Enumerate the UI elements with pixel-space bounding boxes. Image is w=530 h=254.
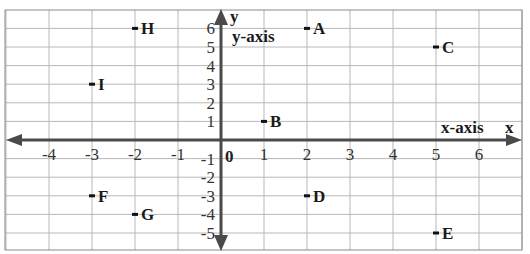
- x-tick-label: -3: [85, 145, 99, 164]
- point-marker: [132, 213, 138, 216]
- y-tick-label: 5: [207, 38, 216, 57]
- point-label: E: [442, 224, 453, 243]
- x-tick-label: 4: [389, 145, 398, 164]
- y-tick-label: -3: [201, 187, 215, 206]
- point-label: B: [270, 112, 281, 131]
- y-tick-labels: -5-4-3-2-1123456: [201, 19, 216, 243]
- x-axis-label: x: [505, 118, 514, 137]
- y-axis-label: y: [230, 7, 239, 26]
- point-label: A: [313, 19, 326, 38]
- point-marker: [89, 83, 95, 86]
- x-axis-left-arrow-icon: [6, 134, 22, 146]
- points: ABCDEFGHI: [89, 19, 454, 243]
- point-marker: [433, 46, 439, 49]
- y-tick-label: -5: [201, 224, 215, 243]
- y-axis-name: y-axis: [232, 27, 275, 46]
- point-marker: [89, 194, 95, 197]
- x-tick-label: -2: [128, 145, 142, 164]
- point-marker: [304, 27, 310, 30]
- y-tick-label: 2: [207, 94, 216, 113]
- point-label: C: [442, 38, 454, 57]
- y-axis-down-arrow-icon: [214, 235, 228, 251]
- y-axis-up-arrow-icon: [214, 9, 228, 25]
- x-axis-name: x-axis: [441, 118, 484, 137]
- point-label: G: [141, 205, 154, 224]
- x-tick-label: 5: [432, 145, 441, 164]
- y-tick-label: -1: [201, 150, 215, 169]
- point-label: F: [98, 187, 108, 206]
- x-tick-label: 3: [346, 145, 355, 164]
- x-tick-label: 2: [303, 145, 312, 164]
- y-tick-label: 3: [207, 75, 216, 94]
- y-tick-label: 4: [207, 57, 216, 76]
- point-marker: [132, 27, 138, 30]
- y-tick-label: -2: [201, 168, 215, 187]
- y-tick-label: 1: [207, 112, 216, 131]
- point-label: I: [98, 75, 105, 94]
- y-tick-label: 6: [207, 19, 216, 38]
- x-tick-label: -4: [42, 145, 57, 164]
- coordinate-plane: -4-3-2-1123456 -5-4-3-2-1123456 0 x-axis…: [0, 0, 530, 254]
- x-tick-labels: -4-3-2-1123456: [42, 145, 483, 164]
- origin-label: 0: [225, 147, 234, 166]
- point-marker: [261, 120, 267, 123]
- x-tick-label: -1: [171, 145, 185, 164]
- y-tick-label: -4: [201, 205, 216, 224]
- x-tick-label: 1: [260, 145, 269, 164]
- point-label: H: [141, 19, 154, 38]
- point-label: D: [313, 187, 325, 206]
- point-marker: [304, 194, 310, 197]
- point-marker: [433, 232, 439, 235]
- x-tick-label: 6: [475, 145, 484, 164]
